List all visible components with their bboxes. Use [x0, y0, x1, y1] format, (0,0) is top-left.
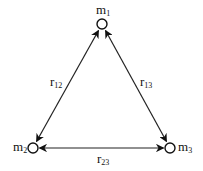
node-m3 [165, 143, 175, 153]
node-m1 [97, 19, 107, 29]
label-m3: m3 [178, 140, 192, 155]
label-m2: m2 [13, 140, 27, 155]
node-m2 [28, 143, 38, 153]
three-body-diagram [0, 0, 203, 171]
edge-r12 [37, 31, 99, 142]
label-r13: r13 [140, 75, 152, 90]
label-r12: r12 [50, 75, 62, 90]
edge-r13 [106, 31, 167, 142]
label-m1: m1 [96, 3, 110, 18]
label-r23: r23 [97, 152, 109, 167]
